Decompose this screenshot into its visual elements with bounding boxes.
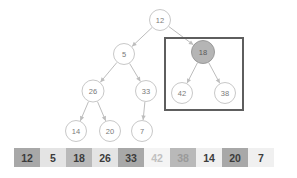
tree-node-label: 26: [89, 87, 97, 96]
array-cell[interactable]: 42: [144, 148, 170, 167]
tree-node[interactable]: 42: [172, 83, 193, 104]
tree-node-label: 7: [140, 127, 144, 136]
tree-node[interactable]: 18: [192, 41, 215, 64]
array-cell[interactable]: 5: [40, 148, 66, 167]
tree-node-label: 33: [142, 87, 150, 96]
tree-edge: [169, 27, 194, 45]
tree-node[interactable]: 12: [150, 10, 171, 31]
array-cell[interactable]: 12: [14, 148, 40, 167]
binary-tree-diagram: 125182633423814207: [0, 0, 297, 145]
tree-node[interactable]: 20: [100, 121, 121, 142]
array-cell[interactable]: 33: [118, 148, 144, 167]
array-representation: 125182633423814207: [14, 148, 274, 167]
tree-node-label: 20: [106, 127, 114, 136]
tree-edges-layer: [80, 27, 220, 121]
tree-node-label: 38: [221, 89, 229, 98]
array-cell[interactable]: 26: [92, 148, 118, 167]
array-cell[interactable]: 38: [170, 148, 196, 167]
tree-node[interactable]: 38: [215, 83, 236, 104]
tree-node[interactable]: 5: [114, 44, 135, 65]
tree-node-label: 5: [122, 50, 126, 59]
tree-node[interactable]: 7: [132, 121, 153, 142]
array-cell[interactable]: 7: [248, 148, 274, 167]
tree-node[interactable]: 26: [82, 80, 104, 102]
tree-edge-arrowhead: [188, 40, 193, 44]
figure-canvas: 125182633423814207 125182633423814207: [0, 0, 297, 178]
tree-node-label: 42: [178, 89, 186, 98]
tree-node[interactable]: 33: [136, 81, 157, 102]
tree-node-label: 18: [199, 48, 207, 57]
tree-node[interactable]: 14: [66, 121, 87, 142]
array-cell[interactable]: 20: [222, 148, 248, 167]
tree-node-label: 12: [156, 16, 164, 25]
tree-node-label: 14: [72, 127, 80, 136]
array-cell[interactable]: 14: [196, 148, 222, 167]
array-cell[interactable]: 18: [66, 148, 92, 167]
